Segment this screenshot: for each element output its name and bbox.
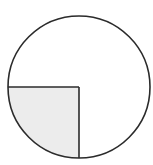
shaded-quadrant bbox=[8, 87, 79, 158]
fraction-circle-diagram bbox=[0, 0, 153, 165]
